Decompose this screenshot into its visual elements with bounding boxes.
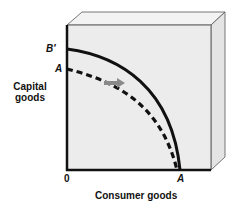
y-intercept-label-new: B′ [46,44,56,54]
box-top-face [67,12,225,25]
y-axis-label: Capital goods [2,81,58,103]
ppf-diagram [0,0,235,207]
y-intercept-label-old: A [55,64,62,74]
origin-label: 0 [64,174,70,184]
x-axis-label: Consumer goods [95,191,177,201]
box-front-face [67,25,211,170]
box-right-face [211,12,225,170]
x-intercept-label: A [177,174,184,184]
